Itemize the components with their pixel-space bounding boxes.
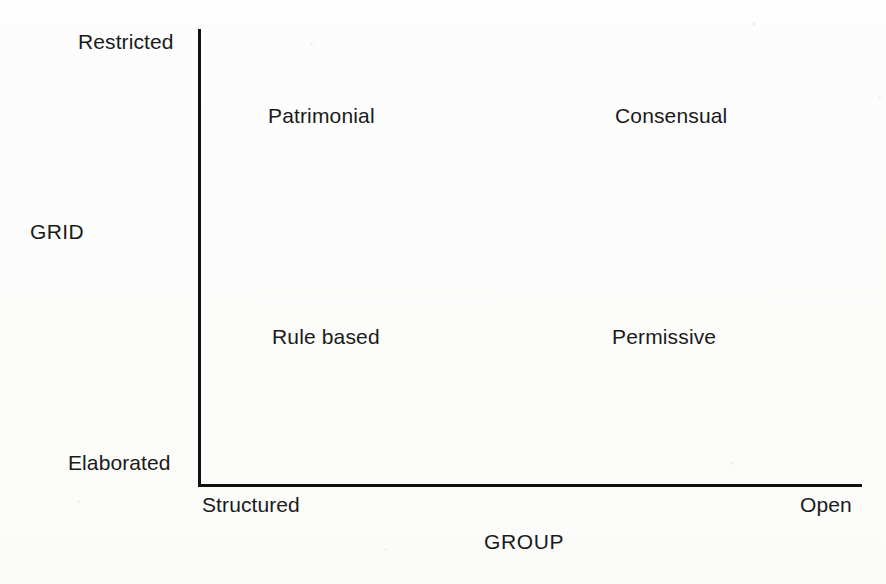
scan-speck — [731, 462, 734, 465]
x-axis-title: GROUP — [484, 531, 564, 552]
scan-speck — [753, 22, 756, 26]
scan-speck — [77, 500, 80, 503]
y-axis-title: GRID — [30, 221, 84, 242]
y-axis-bottom-label: Elaborated — [68, 452, 171, 473]
quadrant-label-bottom-right: Permissive — [612, 326, 716, 347]
y-axis-line — [198, 29, 201, 487]
grid-group-matrix-figure: Restricted Elaborated GRID Structured Op… — [0, 0, 886, 584]
scan-speck — [384, 548, 387, 551]
y-axis-top-label: Restricted — [78, 31, 174, 52]
quadrant-label-top-right: Consensual — [615, 105, 727, 126]
x-axis-left-label: Structured — [202, 494, 300, 515]
x-axis-right-label: Open — [800, 494, 852, 515]
figure-plot-area: Restricted Elaborated GRID Structured Op… — [0, 0, 886, 584]
scan-speck — [878, 96, 881, 99]
quadrant-label-top-left: Patrimonial — [268, 105, 375, 126]
scan-speck — [310, 42, 313, 45]
quadrant-label-bottom-left: Rule based — [272, 326, 380, 347]
caption-fragment — [28, 569, 728, 583]
x-axis-line — [198, 484, 862, 487]
